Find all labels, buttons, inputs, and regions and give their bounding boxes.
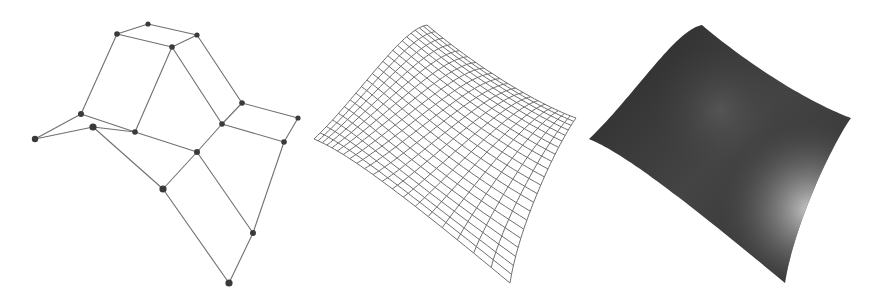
specular-highlight (589, 25, 851, 283)
surface-figure (0, 0, 888, 301)
shaded-surface-panel (0, 0, 888, 301)
